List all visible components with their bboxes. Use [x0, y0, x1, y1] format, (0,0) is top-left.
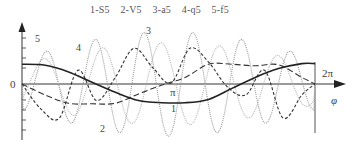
origin-label: 0 [10, 78, 16, 90]
curve-5-label: 5 [35, 33, 40, 44]
curve-1-label: 1 [171, 103, 176, 114]
legend: 1-S5 2-V5 3-a5 4-q5 5-f5 [90, 4, 290, 15]
x-axis-label: φ [331, 94, 337, 106]
legend-item-3: 3-a5 [152, 4, 171, 15]
x-axis-arrow-icon [334, 80, 346, 88]
axes [19, 22, 347, 140]
legend-item-5: 5-f5 [212, 4, 229, 15]
legend-item-4: 4-q5 [182, 4, 201, 15]
y-axis-arrow-icon [19, 22, 26, 32]
curve-2-label: 2 [100, 123, 105, 134]
pi-tick-label: π [170, 86, 176, 98]
legend-item-2: 2-V5 [120, 4, 141, 15]
curve-3-label: 3 [146, 25, 151, 36]
legend-item-1: 1-S5 [90, 4, 110, 15]
curve-4-label: 4 [76, 42, 81, 53]
two-pi-tick-label: 2π [322, 67, 333, 79]
motion-curves-chart [0, 0, 353, 147]
